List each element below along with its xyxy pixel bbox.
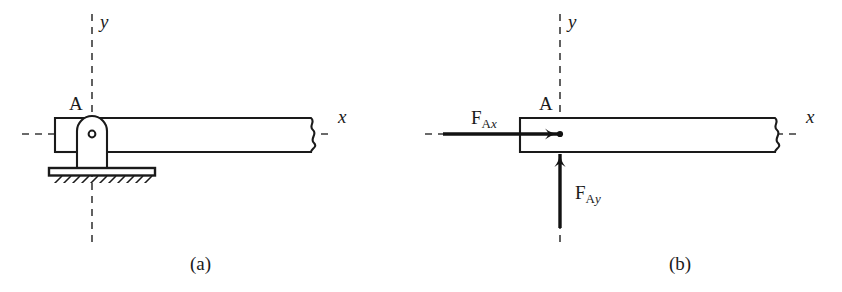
force-sub-axis-fax: x <box>491 116 497 131</box>
force-label-fay: FAy <box>575 183 601 205</box>
caption-a: (a) <box>190 254 211 273</box>
x-axis-label-a: x <box>338 107 346 126</box>
figure-canvas: y x A (a) y x A FAx FAy (b) <box>0 0 842 292</box>
origin-dot-b <box>557 131 563 137</box>
force-sub-axis-fay: y <box>595 191 601 206</box>
y-axis-label-a: y <box>100 12 108 31</box>
point-label-b: A <box>539 94 553 113</box>
figure-vector-layer <box>0 0 842 292</box>
force-sub-point-fax: A <box>482 116 491 131</box>
point-label-a: A <box>69 94 83 113</box>
caption-b: (b) <box>669 254 691 273</box>
force-symbol-fax: F <box>471 107 482 128</box>
x-axis-label-b: x <box>806 107 814 126</box>
pin-support-bracket-a <box>77 116 107 168</box>
support-base-plate-a <box>49 168 155 176</box>
pin-hole-a <box>89 131 96 138</box>
force-symbol-fay: F <box>575 182 586 203</box>
force-sub-point-fay: A <box>586 191 595 206</box>
y-axis-label-b: y <box>568 12 576 31</box>
ground-hatching-a <box>52 176 152 186</box>
force-label-fax: FAx <box>471 108 497 130</box>
panel-a-graphics <box>22 14 332 245</box>
